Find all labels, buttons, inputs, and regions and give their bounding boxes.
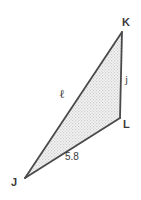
triangle-svg: [0, 0, 141, 200]
side-label-jl: 5.8: [65, 152, 79, 162]
vertex-label-l: L: [123, 119, 130, 130]
side-label-kl: j: [125, 74, 128, 85]
vertex-label-j: J: [11, 177, 17, 188]
vertex-label-k: K: [122, 17, 130, 28]
side-label-jk: ℓ: [59, 88, 65, 100]
triangle-figure: K L J j ℓ 5.8: [0, 0, 141, 200]
